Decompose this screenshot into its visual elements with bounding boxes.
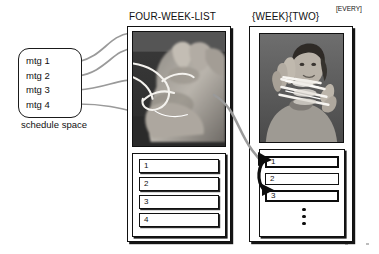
four-week-list-rows: 1 2 3 4 <box>132 153 226 237</box>
schedule-space-item-list: mtg 1 mtg 2 mtg 3 mtg 4 <box>19 49 81 117</box>
scan-speck <box>345 243 348 245</box>
list-row[interactable]: 2 <box>265 173 339 185</box>
list-row[interactable]: 1 <box>265 156 339 168</box>
list-row[interactable]: 3 <box>265 190 339 202</box>
list-row-label: 3 <box>271 192 275 200</box>
schedule-space-caption: schedule space <box>9 119 99 130</box>
panel-title-superscript-every: [EVERY] <box>336 5 362 12</box>
person-holding-string-photo <box>259 33 344 143</box>
figure-canvas: mtg 1 mtg 2 mtg 3 mtg 4 schedule space F… <box>0 0 379 254</box>
scan-speck <box>366 243 369 245</box>
schedule-item-mtg-4: mtg 4 <box>26 98 81 113</box>
list-row-label: 3 <box>144 198 148 206</box>
schedule-item-mtg-3: mtg 3 <box>26 83 81 98</box>
schedule-item-mtg-1: mtg 1 <box>26 54 81 69</box>
week-two-list-rows: 1 2 3 <box>259 149 345 237</box>
list-row[interactable]: 3 <box>139 195 219 209</box>
panel-title-week-two: {WEEK}{TWO} <box>252 11 319 22</box>
panel-week-two-every: 1 2 3 <box>249 26 353 242</box>
connector-mtg-1 <box>78 33 130 62</box>
list-row[interactable]: 2 <box>139 177 219 191</box>
list-row-label: 2 <box>270 175 274 183</box>
vertical-ellipsis-icon <box>301 208 307 225</box>
hand-with-string-photo <box>132 31 226 147</box>
schedule-item-mtg-2: mtg 2 <box>26 69 81 84</box>
list-row-label: 2 <box>144 180 148 188</box>
list-row-label: 1 <box>144 162 148 170</box>
schedule-space-box: mtg 1 mtg 2 mtg 3 mtg 4 <box>18 48 82 118</box>
panel-four-week-list: 1 2 3 4 <box>127 26 231 242</box>
connector-mtg-2 <box>78 48 134 76</box>
list-row[interactable]: 4 <box>139 213 219 227</box>
list-row-label: 1 <box>271 158 275 166</box>
panel-title-four-week-list: FOUR-WEEK-LIST <box>129 11 216 22</box>
list-row[interactable]: 1 <box>139 159 219 173</box>
list-row-label: 4 <box>144 216 148 224</box>
